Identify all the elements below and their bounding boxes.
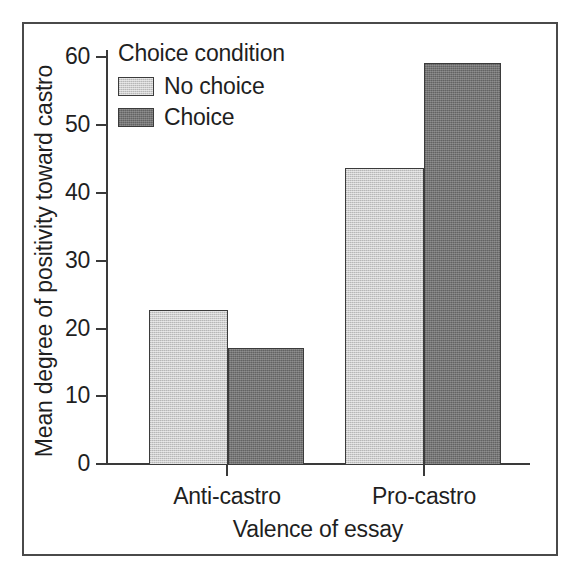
legend-label-no-choice: No choice xyxy=(164,73,264,100)
y-tick-mark-40 xyxy=(96,192,107,194)
bar-pro-castro-choice xyxy=(424,63,501,465)
y-tick-mark-20 xyxy=(96,328,107,330)
legend-item-no-choice: No choice xyxy=(118,71,285,102)
bar-pro-castro-no-choice xyxy=(345,168,424,465)
bar-chart-plot-area: 0 10 20 30 40 50 60 Anti-castro Pro-cast… xyxy=(0,0,583,576)
legend-title: Choice condition xyxy=(118,40,285,67)
y-axis-title: Mean degree of positivity toward castro xyxy=(31,51,57,471)
x-tick-mark-pro-castro xyxy=(423,465,425,476)
y-axis-line xyxy=(106,50,108,465)
legend-label-choice: Choice xyxy=(164,104,234,131)
x-tick-label-pro-castro: Pro-castro xyxy=(328,483,520,509)
y-tick-mark-10 xyxy=(96,395,107,397)
y-tick-mark-50 xyxy=(96,124,107,126)
x-axis-title: Valence of essay xyxy=(106,516,530,542)
x-tick-label-anti-castro: Anti-castro xyxy=(127,483,327,509)
dark-gray-swatch-icon xyxy=(118,108,154,127)
figure-root: 0 10 20 30 40 50 60 Anti-castro Pro-cast… xyxy=(0,0,583,576)
light-gray-swatch-icon xyxy=(118,77,154,96)
x-tick-mark-anti-castro xyxy=(226,465,228,476)
y-tick-mark-30 xyxy=(96,260,107,262)
y-tick-mark-0 xyxy=(96,463,107,465)
bar-anti-castro-no-choice xyxy=(149,310,228,465)
chart-legend: Choice condition No choice Choice xyxy=(118,40,285,133)
y-tick-mark-60 xyxy=(96,56,107,58)
legend-item-choice: Choice xyxy=(118,102,285,133)
bar-anti-castro-choice xyxy=(228,348,304,465)
